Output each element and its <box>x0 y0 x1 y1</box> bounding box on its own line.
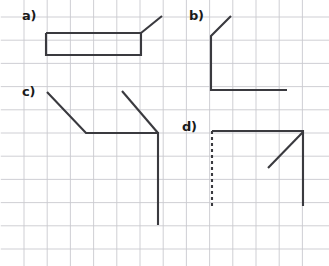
panel-d-stroke-1-solid <box>212 131 303 206</box>
figure-canvas: a)b)c)d) <box>0 0 329 266</box>
panel-c-stroke-1-solid <box>47 92 158 225</box>
panel-a-stroke-2-solid <box>141 16 162 33</box>
panel-d-stroke-3-solid <box>268 132 303 168</box>
panel-d <box>212 131 303 206</box>
panel-label-a: a) <box>22 9 36 22</box>
panel-c-stroke-2-solid <box>122 91 158 133</box>
panel-a-stroke-1-solid <box>46 33 141 55</box>
panel-a <box>46 16 162 55</box>
panel-label-d: d) <box>182 120 197 133</box>
panel-label-c: c) <box>22 85 35 98</box>
panel-b-stroke-1-solid <box>211 16 287 90</box>
panel-c <box>47 91 158 225</box>
panel-b <box>211 16 287 90</box>
shape-layer <box>0 0 329 266</box>
panel-label-b: b) <box>189 9 204 22</box>
